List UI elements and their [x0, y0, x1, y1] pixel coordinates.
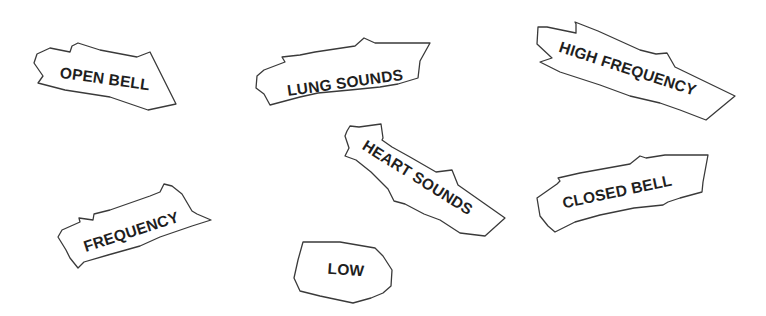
- card-lung-sounds: LUNG SOUNDS: [256, 38, 430, 105]
- word-card-diagram: OPEN BELL LUNG SOUNDS HIGH FREQUENCY HEA…: [0, 0, 766, 316]
- torn-paper-shape: [256, 38, 430, 105]
- card-low: LOW: [294, 242, 392, 303]
- card-label: LOW: [327, 260, 365, 280]
- card-frequency: FREQUENCY: [58, 184, 211, 268]
- card-closed-bell: CLOSED BELL: [537, 155, 708, 232]
- card-open-bell: OPEN BELL: [34, 43, 176, 110]
- card-high-frequency: HIGH FREQUENCY: [537, 22, 735, 120]
- card-heart-sounds: HEART SOUNDS: [345, 124, 505, 236]
